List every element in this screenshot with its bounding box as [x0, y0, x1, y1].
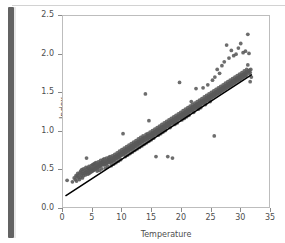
- x-tick-mark: [240, 208, 241, 212]
- chart-figure: 0.00.51.01.52.02.5 05101520253035 Index …: [20, 8, 285, 240]
- y-tick-label: 0.5: [28, 164, 54, 173]
- y-tick-label: 1.0: [28, 126, 54, 135]
- trendline-layer: [63, 16, 269, 207]
- x-tick-label: 25: [202, 213, 220, 222]
- x-tick-mark: [211, 208, 212, 212]
- x-axis-label: Temperature: [106, 230, 226, 240]
- x-tick-label: 10: [112, 213, 130, 222]
- x-tick-mark: [270, 208, 271, 212]
- x-tick-label: 35: [261, 213, 279, 222]
- y-tick-label: 2.5: [28, 10, 54, 19]
- y-tick-label: 2.0: [28, 49, 54, 58]
- top-divider: [12, 5, 285, 6]
- x-tick-label: 5: [83, 213, 101, 222]
- plot-area: [62, 15, 270, 208]
- vertical-scrollbar[interactable]: [8, 7, 14, 238]
- x-tick-mark: [92, 208, 93, 212]
- y-tick-label: 0.0: [28, 203, 54, 212]
- x-tick-mark: [181, 208, 182, 212]
- x-tick-mark: [151, 208, 152, 212]
- y-tick-label: 1.5: [28, 87, 54, 96]
- x-tick-label: 30: [231, 213, 249, 222]
- x-tick-label: 15: [142, 213, 160, 222]
- x-tick-label: 20: [172, 213, 190, 222]
- screenshot-root: 0.00.51.01.52.02.5 05101520253035 Index …: [0, 0, 285, 243]
- x-tick-mark: [62, 208, 63, 212]
- x-tick-mark: [121, 208, 122, 212]
- x-tick-label: 0: [53, 213, 71, 222]
- left-gutter-shadow: [14, 7, 16, 238]
